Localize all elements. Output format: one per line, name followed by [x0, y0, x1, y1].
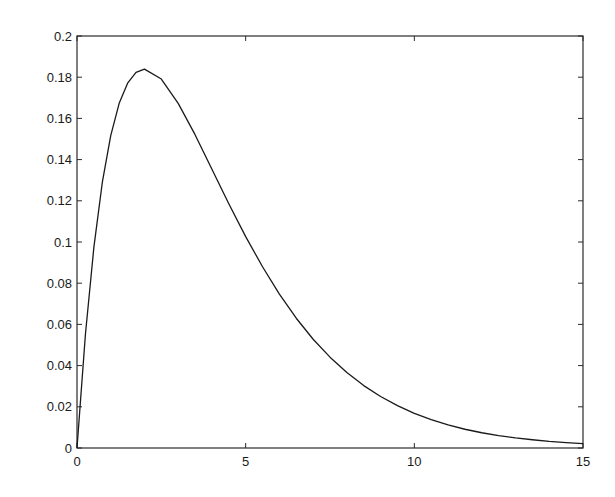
y-tick-label: 0.08	[47, 276, 72, 291]
axes-box	[77, 36, 583, 448]
y-tick-label: 0.1	[54, 235, 72, 250]
y-tick-label: 0.18	[47, 70, 72, 85]
y-tick-label: 0	[65, 441, 72, 456]
y-tick-label: 0.2	[54, 29, 72, 44]
figure: 00.020.040.060.080.10.120.140.160.180.2 …	[0, 0, 615, 497]
y-tick-label: 0.06	[47, 317, 72, 332]
y-tick-label: 0.04	[47, 358, 72, 373]
y-tick-label: 0.14	[47, 152, 72, 167]
line-chart: 00.020.040.060.080.10.120.140.160.180.2 …	[0, 0, 615, 497]
y-tick-label: 0.16	[47, 111, 72, 126]
x-tick-label: 15	[576, 454, 590, 469]
x-tick-label: 0	[73, 454, 80, 469]
x-tick-label: 5	[242, 454, 249, 469]
plot-area	[77, 36, 583, 448]
y-tick-label: 0.12	[47, 193, 72, 208]
y-tick-label: 0.02	[47, 399, 72, 414]
x-tick-label: 10	[407, 454, 421, 469]
